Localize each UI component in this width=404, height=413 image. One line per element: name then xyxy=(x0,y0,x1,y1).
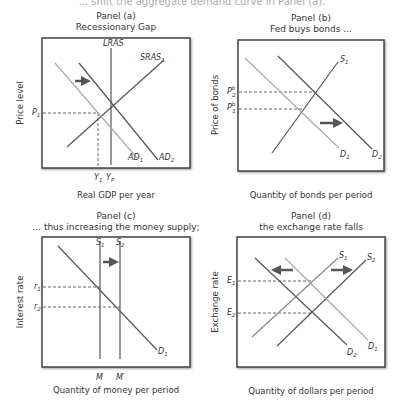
r2-label: r2 xyxy=(34,302,41,312)
panel-b-frame xyxy=(238,40,384,171)
panel-a-title: Panel (a) xyxy=(96,11,136,21)
e2-label: E2 xyxy=(227,308,236,318)
four-panel-diagram: Panel (a) Recessionary Gap Price level R… xyxy=(0,0,404,413)
m-label: M xyxy=(96,373,103,382)
panel-b-subtitle: Fed buys bonds ... xyxy=(270,24,352,34)
panel-a-ylabel: Price level xyxy=(15,81,25,125)
panel-b-xlabel: Quantity of bonds per period xyxy=(250,190,373,200)
panel-d-ylabel: Exchange rate xyxy=(210,271,220,333)
sras-label: SRAS1 xyxy=(140,53,165,63)
panel-d: Panel (d) the exchange rate falls Exchan… xyxy=(210,211,385,396)
pb2-label: Pb2 xyxy=(227,85,236,98)
panel-d-xlabel: Quantity of dollars per period xyxy=(248,386,373,396)
panel-c-title: Panel (c) xyxy=(96,211,135,221)
panel-a: Panel (a) Recessionary Gap Price level R… xyxy=(15,11,190,200)
yp-label: YP xyxy=(106,173,115,183)
r1-label: r1 xyxy=(34,282,41,292)
p1-label: P1 xyxy=(32,108,40,118)
panel-b: Panel (b) Fed buys bonds ... Price of bo… xyxy=(210,13,384,200)
pb1-label: Pb1 xyxy=(227,101,236,114)
panel-a-subtitle: Recessionary Gap xyxy=(76,22,157,32)
panel-d-title: Panel (d) xyxy=(291,211,331,221)
panel-c-frame xyxy=(42,237,190,367)
y1-label: Y1 xyxy=(94,173,102,183)
panel-c-ylabel: Interest rate xyxy=(15,276,25,329)
panel-d-frame xyxy=(237,237,385,367)
lras-label: LRAS xyxy=(103,39,124,48)
panel-d-subtitle: the exchange rate falls xyxy=(259,222,363,232)
panel-b-title: Panel (b) xyxy=(291,13,331,23)
panel-b-ylabel: Price of bonds xyxy=(210,74,220,135)
panel-c-subtitle: ... thus increasing the money supply; xyxy=(32,222,199,232)
e1-label: E1 xyxy=(227,276,236,286)
panel-c: Panel (c) ... thus increasing the money … xyxy=(15,211,200,395)
panel-c-xlabel: Quantity of money per period xyxy=(53,385,179,395)
panel-a-xlabel: Real GDP per year xyxy=(77,190,155,200)
m-prime-label: M′ xyxy=(116,373,125,382)
